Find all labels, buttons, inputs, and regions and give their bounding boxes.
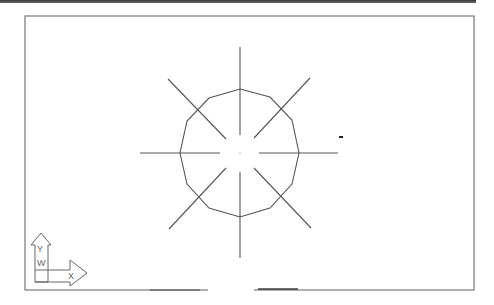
radial-lines[interactable]: [140, 47, 338, 258]
ucs-y-label: Y: [37, 244, 43, 254]
radial-line-up-left[interactable]: [168, 79, 226, 139]
ucs-x-label: X: [68, 271, 74, 281]
radial-line-up-right[interactable]: [254, 78, 310, 138]
radial-line-down-right[interactable]: [254, 168, 311, 228]
drawing-canvas[interactable]: Y W X: [0, 0, 494, 305]
marker-dot: [339, 136, 343, 138]
ucs-w-label: W: [37, 258, 46, 268]
radial-line-down-left[interactable]: [169, 168, 226, 229]
viewport-border: [25, 16, 474, 290]
center-point: [239, 152, 241, 154]
